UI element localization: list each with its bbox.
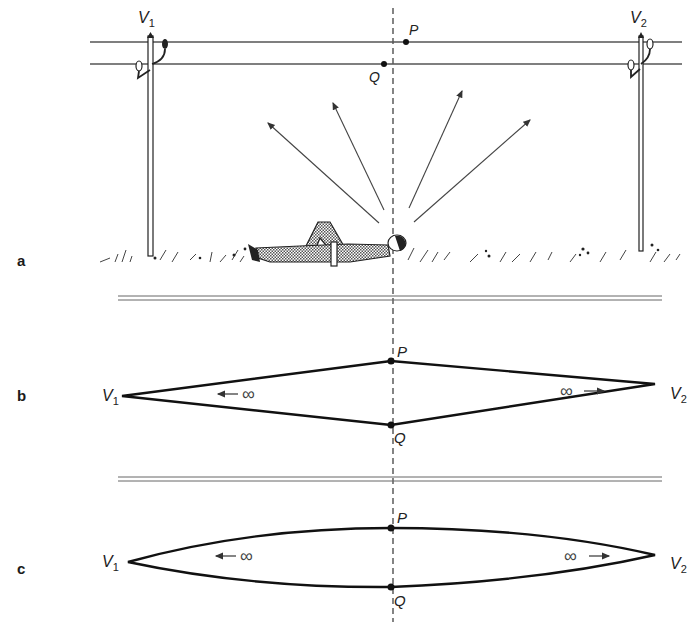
point-q-b: [388, 422, 395, 429]
label-v1-c: V1: [102, 553, 119, 573]
panel-a-scene: V1 V2 P Q: [90, 9, 682, 266]
panel-b-rhombus: P Q V1 V2 ∞ ∞: [102, 343, 687, 446]
label-p-c: P: [397, 509, 407, 526]
label-v2-top: V2: [630, 9, 647, 29]
separator-bc: [118, 477, 662, 481]
label-v1-top: V1: [138, 9, 155, 29]
label-q-c: Q: [394, 592, 406, 609]
point-q-c: [388, 584, 395, 591]
separator-ab: [118, 296, 662, 300]
perspective-diagram: V1 V2 P Q: [0, 0, 692, 625]
pole-v2: [628, 32, 653, 251]
label-v1-b: V1: [102, 387, 119, 407]
infinity-right-c: ∞: [564, 546, 577, 566]
label-q-a: Q: [369, 69, 380, 85]
grass-dots: [154, 244, 660, 260]
label-v2-c: V2: [670, 555, 687, 575]
pole-v1: [136, 32, 168, 256]
panel-c-lens: P Q V1 V2 ∞ ∞: [102, 509, 687, 609]
point-p-a: [403, 39, 409, 45]
label-p-a: P: [409, 22, 419, 38]
lying-person: [248, 222, 406, 266]
infinity-left-b: ∞: [242, 384, 255, 404]
infinity-right-b: ∞: [560, 381, 573, 401]
label-q-b: Q: [394, 429, 406, 446]
label-p-b: P: [397, 343, 407, 360]
point-p-b: [388, 358, 395, 365]
point-p-c: [388, 525, 395, 532]
point-q-a: [381, 61, 387, 67]
infinity-left-c: ∞: [240, 546, 253, 566]
sight-arrows: [268, 91, 530, 223]
label-v2-b: V2: [670, 385, 687, 405]
